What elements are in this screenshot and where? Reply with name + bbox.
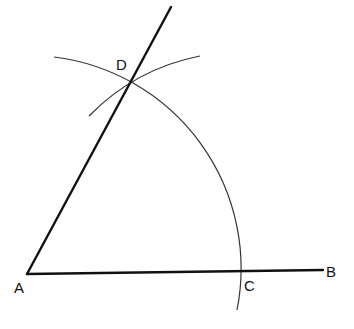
segment-AB (27, 270, 323, 274)
arc-center-C (89, 56, 200, 116)
point-label-B: B (326, 263, 336, 280)
ray-AD (27, 7, 171, 274)
point-label-A: A (14, 279, 24, 296)
geometry-diagram: A B C D (0, 0, 354, 329)
diagram-canvas: A B C D (0, 0, 354, 329)
point-label-D: D (116, 56, 127, 73)
point-label-C: C (244, 277, 255, 294)
